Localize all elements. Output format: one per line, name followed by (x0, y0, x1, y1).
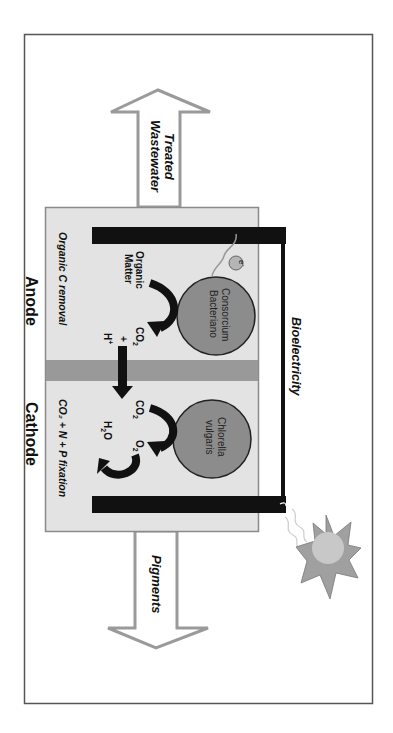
organic-c-removal-label: Organic C removal (57, 232, 69, 326)
organism-cathode-line1: Chlorella (216, 417, 227, 457)
cathode-label: Cathode (23, 402, 40, 466)
treated-label: Treated (162, 133, 177, 181)
organism-cathode-line2: vulgaris (204, 420, 215, 454)
anode-label: Anode (23, 276, 40, 326)
cathode-electrode (92, 496, 286, 513)
diagram-canvas: Treated Wastewater Pigments Anode Cathod… (0, 0, 393, 733)
matter-label: Matter (123, 254, 134, 284)
consorcium-bacteriano-cell: Consorcium Bacteriano (177, 277, 255, 355)
organism-anode-line1: Consorcium (220, 288, 231, 341)
plus-sign: + (118, 336, 129, 342)
anode-electrode (92, 227, 286, 244)
membrane (46, 360, 258, 381)
bioelectricity-label: Bioelectricity (289, 317, 303, 397)
fixation-label: CO₂ + N + P fixation (57, 399, 69, 497)
organism-anode-line2: Bacteriano (208, 290, 219, 338)
chlorella-vulgaris-cell: Chlorella vulgaris (173, 400, 251, 478)
organic-label: Organic (134, 251, 145, 289)
wastewater-label: Wastewater (148, 120, 163, 193)
pigments-label: Pigments (149, 555, 164, 614)
